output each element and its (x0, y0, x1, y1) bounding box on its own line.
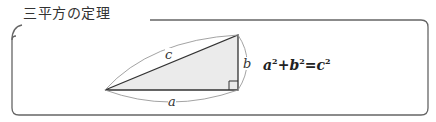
label-b: b (243, 57, 251, 70)
label-c: c (165, 48, 172, 61)
formula-eq: = (305, 57, 317, 73)
label-a: a (168, 95, 176, 108)
formula-plus: + (278, 57, 290, 73)
box-title: 三平方の定理 (20, 5, 113, 21)
pythagorean-formula: a2+b2=c2 (263, 56, 331, 73)
formula-a: a (263, 57, 272, 73)
right-triangle (105, 35, 238, 90)
formula-b: b (289, 57, 299, 73)
formula-c: c (317, 57, 326, 73)
formula-c-exp: 2 (325, 56, 331, 66)
